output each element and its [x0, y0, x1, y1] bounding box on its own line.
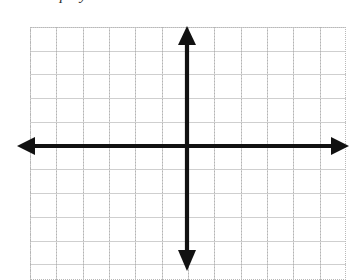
- graph-instruction-text: Graph y = -x + 3.: [34, 0, 150, 3]
- coordinate-plane: [30, 27, 346, 280]
- grid-dot-texture: [30, 27, 346, 280]
